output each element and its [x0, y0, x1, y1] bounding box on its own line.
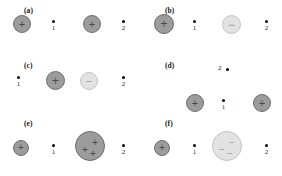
- field-point-marker: [52, 144, 55, 147]
- panel-label-a: (a): [24, 6, 33, 15]
- field-point-label: 1: [15, 80, 22, 88]
- plus-sign-icon: +: [259, 98, 265, 109]
- minus-sign-icon: −: [227, 149, 233, 159]
- field-point-label: 1: [50, 24, 57, 32]
- panel-label-d: (d): [165, 61, 174, 70]
- panel-f-charge-negative-large: −−−: [212, 131, 242, 161]
- field-point-marker: [226, 68, 229, 71]
- panel-d-charge-positive-right: +: [253, 94, 271, 112]
- plus-sign-icon: +: [19, 19, 25, 30]
- field-point-label: 2: [218, 64, 222, 72]
- plus-sign-icon: +: [90, 149, 96, 159]
- field-point-label: 2: [120, 24, 127, 32]
- panel-e-charge-positive-small: +: [13, 140, 29, 156]
- panel-b-charge-positive-left: +: [154, 14, 174, 34]
- field-point-marker: [122, 76, 125, 79]
- panel-c-charge-positive-middle-left: +: [46, 71, 65, 90]
- plus-sign-icon: +: [192, 98, 198, 109]
- minus-sign-icon: −: [86, 76, 92, 87]
- panel-e-charge-positive-large: +++: [75, 131, 105, 161]
- minus-sign-icon: −: [228, 19, 235, 31]
- panel-f-charge-positive-small: +: [154, 140, 170, 156]
- field-point-marker: [52, 20, 55, 23]
- field-point-marker: [193, 144, 196, 147]
- field-point-marker: [265, 144, 268, 147]
- panel-label-f: (f): [165, 119, 173, 128]
- field-point-label: 2: [120, 148, 127, 156]
- plus-sign-icon: +: [89, 19, 95, 30]
- field-point-label: 1: [191, 148, 198, 156]
- field-point-marker: [193, 20, 196, 23]
- panel-c-charge-negative-middle-right: −: [80, 72, 98, 90]
- field-point-marker: [122, 20, 125, 23]
- field-point-marker: [222, 99, 225, 102]
- plus-sign-icon: +: [160, 18, 167, 30]
- field-point-marker: [17, 76, 20, 79]
- field-point-marker: [122, 144, 125, 147]
- field-point-marker: [265, 20, 268, 23]
- plus-sign-icon: +: [52, 75, 59, 87]
- field-point-label: 2: [263, 24, 270, 32]
- plus-sign-icon: +: [18, 143, 24, 153]
- panel-a-charge-positive-right: +: [83, 15, 101, 33]
- minus-sign-icon: −: [219, 145, 225, 155]
- panel-a-charge-positive-left: +: [13, 15, 31, 33]
- plus-sign-icon: +: [92, 138, 98, 148]
- minus-sign-icon: −: [229, 138, 235, 148]
- panel-label-c: (c): [24, 61, 33, 70]
- field-point-label: 2: [263, 148, 270, 156]
- charge-configuration-figure: (a)++12(b)+−12(c)+−12(d)++12(e)++++12(f)…: [0, 0, 282, 176]
- plus-sign-icon: +: [159, 143, 165, 153]
- panel-label-e: (e): [24, 119, 33, 128]
- plus-sign-icon: +: [82, 145, 88, 155]
- panel-b-charge-negative-right: −: [222, 15, 241, 34]
- field-point-label: 2: [120, 80, 127, 88]
- field-point-label: 1: [220, 103, 227, 111]
- panel-d-charge-positive-left: +: [186, 94, 204, 112]
- field-point-label: 1: [50, 148, 57, 156]
- field-point-label: 1: [191, 24, 198, 32]
